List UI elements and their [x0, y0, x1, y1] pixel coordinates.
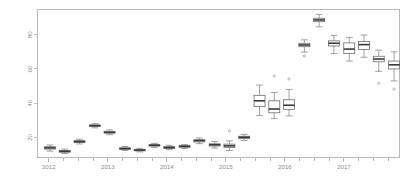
- outlier-point: [393, 88, 395, 90]
- y-tick-label: 40: [27, 99, 34, 106]
- y-tick-label: 80: [27, 31, 34, 38]
- boxplot-box: [254, 85, 265, 115]
- y-tick-label: 20: [27, 133, 34, 140]
- boxplot-box: [373, 50, 384, 84]
- boxplot-box: [179, 144, 190, 148]
- boxplot-box: [389, 52, 400, 90]
- box-iqr: [344, 43, 355, 54]
- boxplot-box: [194, 138, 205, 144]
- boxplot-series: [44, 14, 399, 153]
- boxplot-box: [358, 35, 369, 57]
- boxplot-box: [74, 139, 85, 144]
- boxplot-box: [164, 145, 175, 149]
- outlier-point: [378, 82, 380, 84]
- boxplot-box: [59, 149, 70, 153]
- boxplot-box: [224, 130, 235, 151]
- boxplot-box: [209, 142, 220, 149]
- plot-frame: [38, 10, 400, 158]
- y-axis: 20406080: [27, 31, 38, 141]
- boxplot-box: [269, 75, 280, 119]
- x-tick-label: 2014: [160, 163, 174, 170]
- box-iqr: [358, 42, 369, 50]
- x-tick-label: 2016: [278, 163, 292, 170]
- x-tick-label: 2012: [42, 163, 56, 170]
- x-tick-label: 2015: [219, 163, 233, 170]
- boxplot-box: [149, 143, 160, 147]
- boxplot-box: [284, 78, 295, 116]
- y-tick-label: 60: [27, 65, 34, 72]
- outlier-point: [288, 78, 290, 80]
- outlier-point: [273, 75, 275, 77]
- outlier-point: [303, 55, 305, 57]
- boxplot-box: [299, 40, 310, 57]
- boxplot-box: [104, 130, 115, 135]
- x-tick-label: 2013: [101, 163, 115, 170]
- chart-canvas: 20406080 201220132014201520162017: [0, 0, 414, 185]
- outlier-point: [228, 130, 230, 132]
- boxplot-box: [119, 147, 130, 151]
- x-tick-label: 2017: [337, 163, 351, 170]
- boxplot-box: [134, 148, 145, 151]
- boxplot-box: [89, 124, 100, 128]
- boxplot-box: [328, 35, 339, 53]
- boxplot-box: [44, 145, 55, 151]
- boxplot-box: [239, 134, 250, 140]
- box-iqr: [269, 101, 280, 113]
- boxplot-box: [344, 37, 355, 61]
- boxplot-box: [314, 14, 325, 26]
- boxplot-chart: 20406080 201220132014201520162017: [0, 0, 414, 185]
- x-axis: 201220132014201520162017: [42, 158, 388, 170]
